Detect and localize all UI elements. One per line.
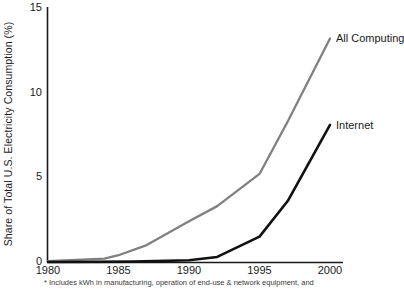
series-line-internet	[48, 125, 330, 262]
series-label-all-computing: All Computing	[336, 32, 404, 44]
series-line-all-computing	[48, 38, 330, 261]
chart-footnote: * Includes kWh in manufacturing, operati…	[44, 278, 396, 287]
series-label-internet: Internet	[336, 119, 373, 131]
